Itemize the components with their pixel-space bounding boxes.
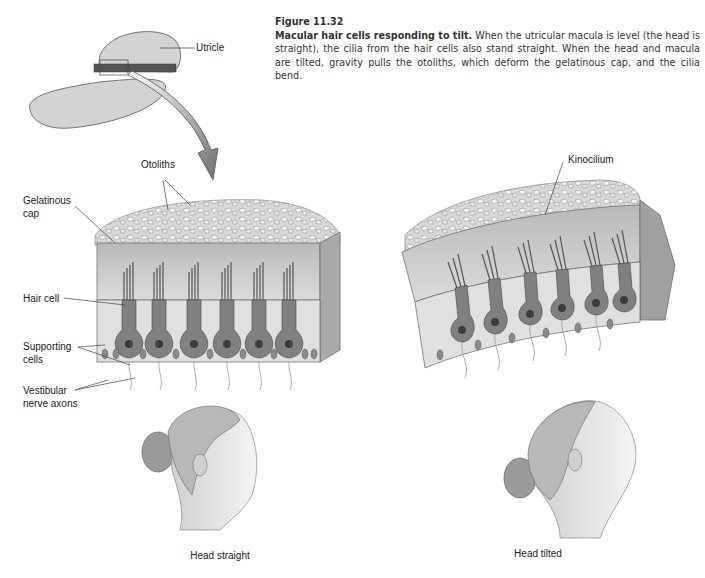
label-vestibular-2: nerve axons (23, 398, 77, 410)
label-supporting-cells-2: cells (23, 354, 43, 366)
figure-caption: Figure 11.32 Macular hair cells respondi… (275, 15, 700, 83)
figure-number: Figure 11.32 (275, 15, 700, 29)
caption-head-straight: Head straight (160, 550, 280, 561)
head-straight-illustration (142, 406, 257, 530)
figure-body: Macular hair cells responding to tilt. W… (275, 29, 700, 83)
label-gelatinous-cap-2: cap (23, 208, 39, 220)
utricle-inset (30, 32, 195, 129)
macula-block-straight (95, 200, 340, 390)
label-kinocilium: Kinocilium (568, 154, 614, 166)
label-supporting-cells-1: Supporting (23, 341, 71, 353)
label-otoliths: Otoliths (141, 159, 175, 171)
label-vestibular-1: Vestibular (23, 385, 67, 397)
label-utricle: Utricle (196, 42, 224, 54)
label-hair-cell: Hair cell (23, 293, 59, 305)
label-gelatinous-cap-1: Gelatinous (23, 195, 71, 207)
caption-head-tilted: Head tilted (478, 548, 598, 559)
macula-block-tilted (402, 180, 675, 378)
figure-title: Macular hair cells responding to tilt. (275, 30, 472, 41)
head-tilted-illustration (504, 401, 636, 538)
illustration (0, 0, 705, 578)
